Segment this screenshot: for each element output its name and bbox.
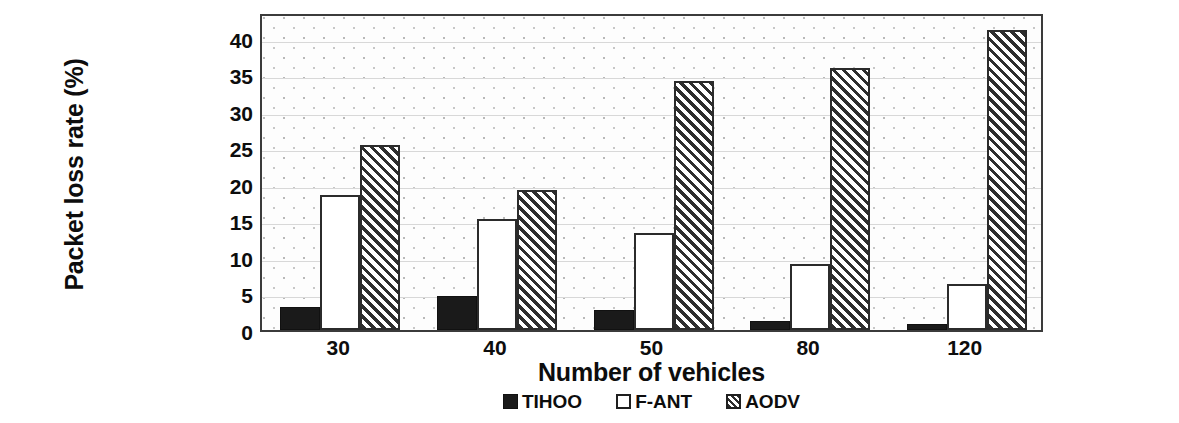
bar-f-ant-40	[477, 219, 517, 330]
y-axis-tick: 25	[205, 139, 253, 160]
y-axis-title: Packet loss rate (%)	[60, 15, 89, 335]
legend-item-aodv[interactable]: AODV	[726, 392, 800, 411]
y-axis-tick: 15	[205, 212, 253, 233]
legend-swatch-icon-tihoo	[503, 394, 518, 409]
legend-item-tihoo[interactable]: TIHOO	[503, 392, 582, 411]
bar-f-ant-80	[790, 264, 830, 330]
bars-layer	[262, 16, 1041, 330]
legend-swatch-icon-aodv	[726, 394, 741, 409]
y-axis-tick: 20	[205, 175, 253, 196]
bar-tihoo-40	[437, 296, 477, 330]
plot-area	[260, 14, 1043, 332]
legend-item-f-ant[interactable]: F-ANT	[616, 392, 692, 411]
bar-aodv-30	[360, 145, 400, 330]
bar-aodv-50	[674, 81, 714, 330]
x-axis-tick: 40	[483, 336, 506, 360]
bar-group	[437, 16, 557, 330]
y-axis-tick: 40	[205, 29, 253, 50]
y-axis-tick: 5	[205, 285, 253, 306]
x-axis-tick: 50	[640, 336, 663, 360]
bar-f-ant-120	[947, 284, 987, 330]
bar-tihoo-120	[907, 324, 947, 330]
legend-label: F-ANT	[635, 392, 692, 411]
bar-aodv-40	[517, 190, 557, 330]
bar-tihoo-80	[750, 321, 790, 331]
bar-group	[750, 16, 870, 330]
bar-group	[594, 16, 714, 330]
y-axis-tick: 10	[205, 248, 253, 269]
legend-label: TIHOO	[522, 392, 582, 411]
bar-f-ant-30	[320, 195, 360, 330]
legend-label: AODV	[745, 392, 800, 411]
bar-group	[280, 16, 400, 330]
y-axis-tick-labels: 0510152025303540	[205, 14, 253, 332]
legend-swatch-icon-f-ant	[616, 394, 631, 409]
y-axis-tick: 0	[205, 322, 253, 343]
bar-aodv-120	[987, 30, 1027, 330]
y-axis-tick: 35	[205, 66, 253, 87]
bar-group	[907, 16, 1027, 330]
x-axis-tick: 30	[327, 336, 350, 360]
bar-tihoo-30	[280, 307, 320, 330]
x-axis-tick: 80	[796, 336, 819, 360]
x-axis-tick: 120	[947, 336, 982, 360]
x-axis-title: Number of vehicles	[260, 358, 1043, 387]
chart-figure: Packet loss rate (%) 0510152025303540 30…	[0, 0, 1179, 423]
bar-tihoo-50	[594, 310, 634, 330]
bar-aodv-80	[830, 68, 870, 330]
chart-legend: TIHOOF-ANTAODV	[260, 392, 1043, 411]
bar-f-ant-50	[634, 233, 674, 330]
y-axis-tick: 30	[205, 102, 253, 123]
